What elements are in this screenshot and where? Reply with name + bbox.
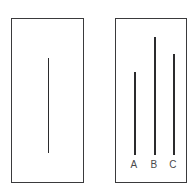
comparison-line-a[interactable] bbox=[134, 72, 136, 155]
line-label-c: C bbox=[166, 160, 180, 170]
line-label-a: A bbox=[127, 160, 141, 170]
line-label-b: B bbox=[147, 160, 161, 170]
reference-line[interactable] bbox=[48, 58, 50, 153]
figure-description: Two white cards side by side. The left c… bbox=[0, 0, 1, 1]
reference-card[interactable] bbox=[11, 18, 84, 183]
line-judgment-figure: A B C Line Judgment Task Two white cards… bbox=[0, 0, 194, 193]
comparison-line-c[interactable] bbox=[173, 54, 175, 155]
figure-title: Line Judgment Task bbox=[0, 0, 1, 1]
comparison-line-b[interactable] bbox=[154, 37, 156, 155]
